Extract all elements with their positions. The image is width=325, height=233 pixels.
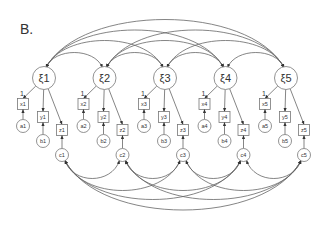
error-covariance-arc xyxy=(186,161,301,191)
loading-arrow xyxy=(285,89,286,111)
indicator-label: x4 xyxy=(202,101,208,107)
indicator-label: y2 xyxy=(101,114,107,120)
latent-covariance-arc xyxy=(107,53,164,68)
loading-arrow xyxy=(225,89,226,111)
indicator-label: z1 xyxy=(59,127,65,133)
fixed-loading-label: 1 xyxy=(81,90,85,97)
error-covariance-arc xyxy=(65,161,120,179)
latent-factor-label: ξ2 xyxy=(99,72,110,84)
error-covariance-arc xyxy=(247,161,302,179)
indicator-label: z4 xyxy=(241,127,247,133)
error-covariance-arcs xyxy=(65,161,301,211)
loading-arrow xyxy=(205,86,218,98)
error-covariance-arc xyxy=(126,161,181,179)
indicator-label: z5 xyxy=(301,127,307,133)
error-covariance-arc xyxy=(65,161,241,200)
latent-covariance-arc xyxy=(46,30,224,68)
sem-path-diagram: ξ11x1y1z1a1b1c1ξ21x2y2z2a2b2c2ξ31x3y3z3a… xyxy=(0,0,325,233)
error-covariance-arc xyxy=(186,161,241,179)
loading-arrow xyxy=(43,89,44,111)
error-label: b2 xyxy=(100,138,106,144)
fixed-loading-label: 1 xyxy=(20,90,24,97)
error-covariance-arc xyxy=(65,161,301,211)
indicator-label: x1 xyxy=(20,101,26,107)
error-label: c3 xyxy=(180,152,186,158)
error-label: b1 xyxy=(40,138,46,144)
latent-covariance-arc xyxy=(167,53,224,68)
loading-arrow xyxy=(109,89,123,125)
indicator-label: z2 xyxy=(120,127,126,133)
error-label: a2 xyxy=(80,123,86,129)
fixed-loading-label: 1 xyxy=(141,90,145,97)
error-label: a1 xyxy=(20,123,26,129)
fixed-loading-label: 1 xyxy=(202,90,206,97)
measurement-groups: ξ11x1y1z1a1b1c1ξ21x2y2z2a2b2c2ξ31x3y3z3a… xyxy=(17,67,311,162)
indicator-label: y4 xyxy=(222,114,228,120)
error-covariance-arc xyxy=(126,161,241,191)
error-label: c5 xyxy=(301,152,307,158)
loading-arrow xyxy=(265,86,278,98)
error-covariance-arc xyxy=(126,161,302,200)
loading-arrow xyxy=(164,89,165,111)
loading-arrow xyxy=(144,86,157,98)
error-label: a5 xyxy=(262,123,268,129)
factor-group-1: ξ11x1y1z1a1b1c1 xyxy=(17,67,69,162)
error-label: a4 xyxy=(201,123,207,129)
loading-arrow xyxy=(84,86,97,98)
loading-arrow xyxy=(23,86,36,98)
indicator-label: y3 xyxy=(161,114,167,120)
latent-covariance-arc xyxy=(46,53,103,68)
factor-group-2: ξ21x2y2z2a2b2c2 xyxy=(77,67,129,162)
indicator-label: x2 xyxy=(81,101,87,107)
indicator-label: z3 xyxy=(180,127,186,133)
latent-factor-label: ξ4 xyxy=(220,72,231,84)
latent-factor-label: ξ1 xyxy=(38,72,49,84)
fixed-loading-label: 1 xyxy=(262,90,266,97)
error-label: b5 xyxy=(282,138,288,144)
factor-group-4: ξ41x4y4z4a4b4c4 xyxy=(198,67,250,162)
error-label: a3 xyxy=(141,123,147,129)
latent-factor-label: ξ5 xyxy=(280,72,291,84)
error-label: b4 xyxy=(221,138,227,144)
loading-arrow xyxy=(48,89,62,125)
latent-covariance-arcs xyxy=(46,20,284,68)
error-label: c4 xyxy=(241,152,247,158)
factor-group-3: ξ31x3y3z3a3b3c3 xyxy=(138,67,190,162)
factor-group-5: ξ51x5y5z5a5b5c5 xyxy=(259,67,311,162)
indicator-label: x5 xyxy=(262,101,268,107)
error-label: c2 xyxy=(120,152,126,158)
loading-arrow xyxy=(169,89,183,125)
indicator-label: y1 xyxy=(40,114,46,120)
loading-arrow xyxy=(104,89,105,111)
error-label: b3 xyxy=(161,138,167,144)
latent-factor-label: ξ3 xyxy=(159,72,170,84)
indicator-label: x3 xyxy=(141,101,147,107)
indicator-label: y5 xyxy=(282,114,288,120)
error-covariance-arc xyxy=(65,161,180,191)
loading-arrow xyxy=(290,89,304,125)
loading-arrow xyxy=(230,89,244,125)
error-label: c1 xyxy=(59,152,65,158)
latent-covariance-arc xyxy=(107,30,285,68)
latent-covariance-arc xyxy=(228,53,285,68)
